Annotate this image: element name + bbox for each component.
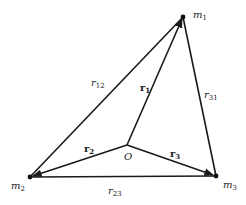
label-r1: r1	[140, 82, 150, 95]
vector-r2	[33, 145, 127, 176]
mass-point-m1	[181, 15, 186, 20]
label-r3: r3	[170, 148, 180, 161]
edge-r23	[30, 176, 216, 177]
label-r2: r2	[84, 143, 94, 156]
label-r12: r12	[91, 77, 105, 90]
label-m2: m2	[11, 180, 25, 193]
label-r23: r23	[108, 185, 122, 198]
three-body-diagram: m1 m2 m3 O r12 r31 r23 r1 r2 r3	[0, 0, 246, 205]
label-m3: m3	[223, 179, 237, 192]
label-r31: r31	[204, 89, 218, 102]
mass-point-m2	[28, 175, 33, 180]
vector-r1	[127, 19, 182, 145]
mass-point-m3	[214, 174, 219, 179]
edge-r12	[30, 17, 183, 177]
label-m1: m1	[193, 9, 207, 22]
label-origin: O	[124, 151, 132, 162]
